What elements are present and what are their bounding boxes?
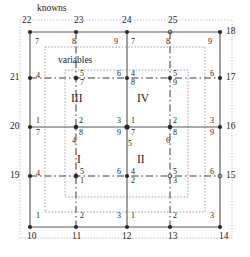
local-node-2-b4: 2 (173, 212, 177, 220)
quadrant-label-III: III (71, 93, 83, 105)
quadrant-label-IV: IV (137, 93, 149, 105)
node-label-13: 13 (168, 232, 178, 242)
local-node-3-c1: 3 (117, 117, 121, 125)
node-label-24: 24 (122, 16, 132, 26)
node-label-15: 15 (226, 171, 236, 181)
local-node-6-m2: 6 (210, 70, 214, 78)
quadrant-label-II: II (137, 154, 145, 166)
node-label-22: 22 (22, 16, 32, 26)
local-node-5-m2: 5 (173, 70, 177, 78)
local-node-1-c2: 1 (131, 117, 135, 125)
node-label-14: 14 (219, 232, 229, 242)
local-node-2-b3: 2 (80, 212, 84, 220)
local-node-6-b1: 6 (117, 168, 121, 176)
variables-region-label: variables (58, 56, 92, 66)
knowns-region-label: knowns (37, 4, 67, 14)
local-node-6-b2: 6 (210, 168, 214, 176)
local-node-8-c1: 8 (79, 129, 83, 137)
local-node-2-b2: 2 (131, 177, 135, 185)
local-node-7-t2: 7 (131, 38, 135, 46)
node-label-16: 16 (226, 122, 236, 132)
node-label-20: 20 (10, 122, 20, 132)
local-node-1-b4: 1 (131, 212, 135, 220)
quadrant-label-I: I (77, 154, 81, 166)
local-node-7-m1: 7 (80, 79, 84, 87)
local-node-5-c2: 5 (128, 140, 132, 148)
local-node-8-t1: 8 (72, 38, 76, 46)
local-node-3-c2: 3 (210, 117, 214, 125)
node-label-10: 10 (27, 232, 37, 242)
local-node-1-c1: 1 (36, 117, 40, 125)
local-node-5-b2: 5 (173, 168, 177, 176)
node-label-11: 11 (72, 232, 81, 242)
node-label-19: 19 (10, 171, 20, 181)
local-node-6-m1: 6 (117, 70, 121, 78)
knowns-region-box (45, 47, 205, 212)
local-node-9-c1: 9 (117, 129, 121, 137)
node-label-18: 18 (226, 27, 236, 37)
local-node-7-c1: 7 (36, 129, 40, 137)
local-node-9-c2: 9 (210, 129, 214, 137)
local-node-8-c2: 8 (173, 129, 177, 137)
local-node-5-b1: 5 (80, 168, 84, 176)
local-node-7-tl: 7 (35, 38, 39, 46)
grid-diagram: knowns variables III IV I II 22 23 24 25… (0, 0, 250, 257)
local-node-2-c1: 2 (79, 117, 83, 125)
local-node-4-b2: 4 (131, 168, 135, 176)
local-node-8-t2: 8 (166, 38, 170, 46)
local-node-4-b1: 4 (36, 170, 40, 178)
local-node-9-m2: 9 (173, 79, 177, 87)
local-node-3-b4: 3 (210, 212, 214, 220)
local-node-2-c2: 2 (173, 117, 177, 125)
node-label-25: 25 (168, 16, 178, 26)
local-node-8-m2: 8 (131, 79, 135, 87)
local-node-9-t2: 9 (208, 38, 212, 46)
local-node-9-t1: 9 (114, 38, 118, 46)
node-label-21: 21 (10, 73, 20, 83)
local-node-5-m1: 5 (80, 70, 84, 78)
node-label-23: 23 (74, 16, 84, 26)
local-node-4-c1: 4 (72, 137, 76, 145)
local-node-1-bl: 1 (36, 212, 40, 220)
node-label-17: 17 (226, 73, 236, 83)
local-node-3-b2: 3 (173, 177, 177, 185)
local-node-1-b1: 1 (80, 177, 84, 185)
local-node-3-b3: 3 (117, 212, 121, 220)
local-node-6-c2: 6 (166, 137, 170, 145)
local-node-4-m1: 4 (36, 72, 40, 80)
node-label-12: 12 (122, 232, 132, 242)
local-node-7-c2: 7 (131, 129, 135, 137)
local-node-4-m2: 4 (131, 70, 135, 78)
